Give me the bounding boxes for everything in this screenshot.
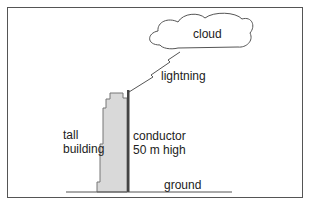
conductor-rod (127, 90, 130, 192)
building-label-line1: tall (63, 128, 78, 142)
ground-label: ground (164, 178, 201, 192)
conductor-label-line1: conductor (133, 129, 186, 143)
building-label-line2: building (63, 142, 104, 156)
lightning-label: lightning (161, 69, 206, 83)
diagram-canvas (0, 0, 309, 207)
conductor-label-line2: 50 m high (133, 143, 186, 157)
cloud-label: cloud (193, 27, 222, 41)
